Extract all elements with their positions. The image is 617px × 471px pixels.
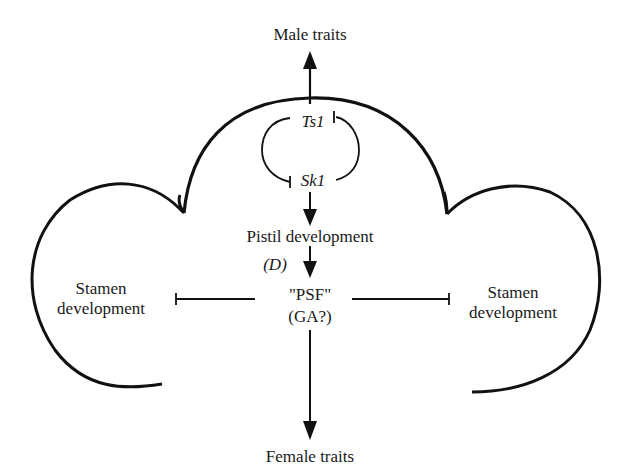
label-female-traits: Female traits (266, 447, 354, 466)
label-sk1: Sk1 (301, 171, 326, 190)
label-psf: "PSF" (289, 285, 331, 304)
flower-regulation-diagram: Male traits Ts1 Sk1 Pistil development (… (0, 0, 617, 471)
label-stamen-left-line1: Stamen (76, 279, 127, 298)
inhibition-ts1-to-sk1 (262, 118, 290, 182)
label-stamen-left-line2: development (57, 299, 145, 318)
label-male-traits: Male traits (273, 25, 346, 44)
label-d-gene: (D) (263, 255, 287, 274)
arrowhead-male-traits (303, 51, 317, 69)
inhibition-sk1-to-ts1 (336, 117, 359, 180)
arrowhead-female-traits (303, 421, 317, 440)
label-ts1: Ts1 (301, 112, 324, 131)
arrowhead-psf (303, 261, 317, 278)
label-stamen-right-line1: Stamen (488, 283, 539, 302)
label-stamen-right-line2: development (469, 303, 557, 322)
label-pistil-development: Pistil development (246, 227, 373, 246)
arrowhead-pistil (303, 209, 317, 226)
label-ga: (GA?) (288, 307, 331, 326)
